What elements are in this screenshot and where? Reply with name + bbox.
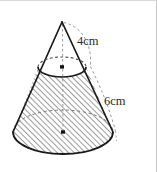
cone-frustum-svg: 4cm 6cm [0, 0, 157, 172]
lower-measure-tick [116, 131, 117, 141]
label-upper-segment: 4cm [77, 34, 99, 48]
figure-canvas: 4cm 6cm [0, 0, 157, 172]
base-center-dot [61, 130, 65, 133]
label-lower-segment: 6cm [104, 94, 126, 108]
cut-plane-center-dot [60, 65, 64, 68]
